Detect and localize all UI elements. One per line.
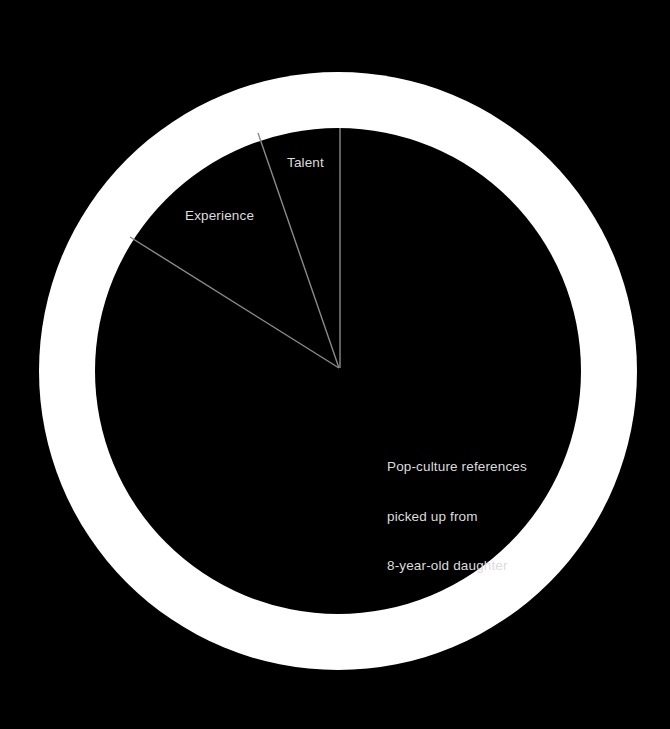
chart-canvas: Talent Experience Pop-culture references…: [0, 0, 670, 729]
donut-ring-group: [39, 72, 637, 670]
slice-label-popculture-line-3: 8-year-old daughter: [387, 558, 527, 575]
slice-label-talent: Talent: [287, 155, 324, 172]
slice-label-popculture-line-2: picked up from: [387, 509, 527, 526]
slice-label-popculture: Pop-culture references picked up from 8-…: [387, 426, 527, 608]
slice-label-popculture-line-1: Pop-culture references: [387, 459, 527, 476]
slice-label-experience: Experience: [185, 208, 254, 225]
donut-chart: [0, 0, 670, 729]
